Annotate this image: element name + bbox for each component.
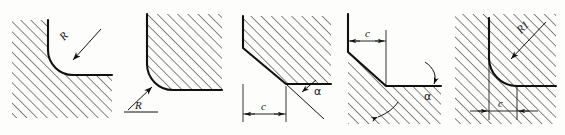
panel-4-size-label: c (365, 27, 370, 39)
panel-3-hatching (238, 10, 336, 90)
drawing-canvas: R R α c c (0, 0, 565, 135)
panel-3-angle-label: α (314, 85, 321, 98)
panel-1-radius-label: R (56, 29, 70, 43)
panel-4-angle-label: α (424, 90, 431, 103)
technical-drawing-sheet: R R α c c (0, 0, 565, 135)
panel-3-size-label: c (261, 100, 266, 112)
panel-5-size-label: c (498, 97, 503, 109)
panel-1-hatching (8, 10, 120, 125)
panel-1-internal-fillet: R (8, 10, 120, 125)
panel-2-radius-label: R (134, 99, 142, 111)
panel-4-chamfer: c α (344, 10, 446, 128)
panel-3-chamfer: α c (238, 10, 336, 122)
panel-2-external-fillet: R (124, 8, 230, 112)
panel-4-hatching (344, 10, 446, 128)
panel-5-fillet-offset: c R1 (450, 10, 562, 128)
panel-2-hatching (140, 8, 230, 98)
panel-1-profile-edge (48, 20, 112, 75)
panel-5-hatching (450, 10, 562, 128)
panel-4-angle-arc-upper (425, 62, 435, 84)
panel-1-radius-leader (73, 29, 101, 60)
